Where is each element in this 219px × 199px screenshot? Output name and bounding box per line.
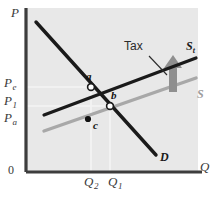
figure-canvas (0, 0, 219, 199)
y-axis-label: P (11, 6, 19, 19)
x-tick-Q1: Q1 (108, 175, 122, 188)
tax-annotation-label: Tax (124, 40, 143, 52)
point-b-marker (107, 103, 114, 110)
point-c-marker (85, 116, 91, 122)
x-tick-Q2: Q2 (84, 175, 98, 188)
y-tick-P1-sub: 1 (12, 100, 17, 110)
y-tick-P1: P1 (4, 94, 16, 107)
x-tick-Q2-base: Q (84, 174, 93, 189)
point-a-label: a (86, 71, 92, 82)
x-tick-Q1-sub: 1 (118, 181, 123, 191)
supply-demand-tax-figure: P Q 0 Pe P1 Pa Q2 Q1 St S D a b c Tax (0, 0, 219, 199)
y-tick-Pa-base: P (4, 110, 12, 125)
x-tick-Q1-base: Q (108, 174, 117, 189)
x-tick-Q2-sub: 2 (94, 181, 99, 191)
origin-label: 0 (8, 164, 14, 176)
point-c-label: c (93, 120, 98, 131)
supply-with-tax-label: St (186, 40, 195, 52)
y-tick-P1-base: P (4, 93, 12, 108)
supply-label: S (197, 88, 204, 100)
x-axis-label: Q (200, 160, 209, 173)
y-tick-Pe: Pe (4, 76, 16, 89)
supply-with-tax-label-sub: t (193, 46, 195, 55)
y-tick-Pa: Pa (4, 111, 16, 124)
supply-with-tax-label-base: S (186, 39, 193, 53)
y-tick-Pe-base: P (4, 75, 12, 90)
point-a-marker (88, 84, 95, 91)
y-tick-Pa-sub: a (12, 117, 17, 127)
demand-label: D (160, 151, 169, 163)
y-tick-Pe-sub: e (12, 82, 16, 92)
point-b-label: b (111, 90, 117, 101)
